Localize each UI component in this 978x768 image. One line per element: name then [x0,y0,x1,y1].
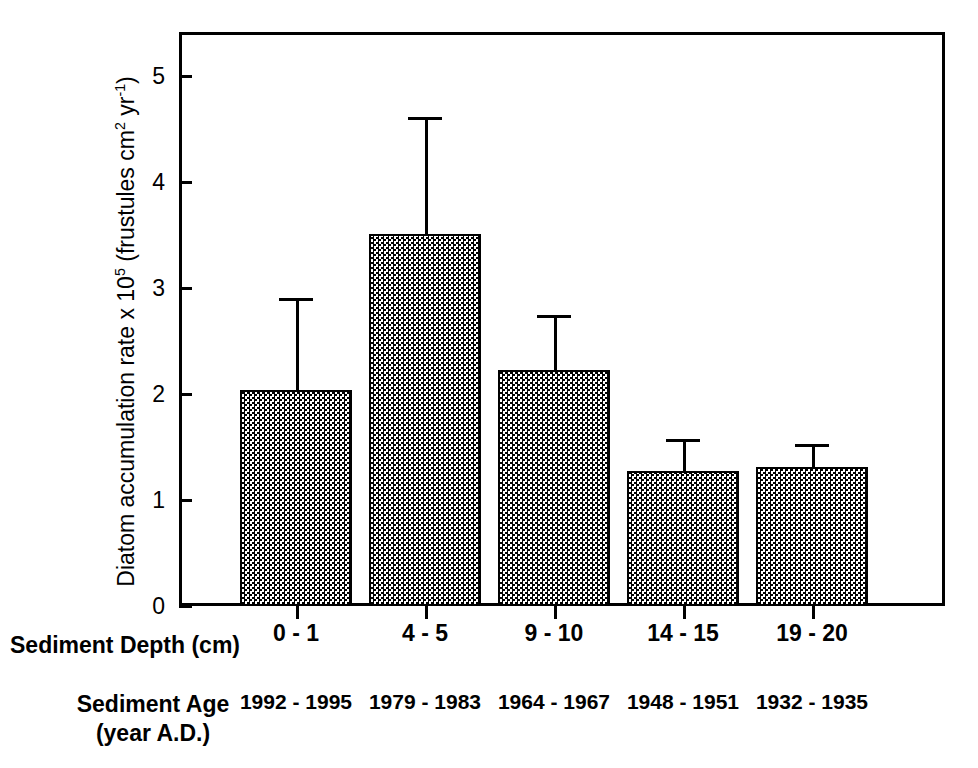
bar-1[interactable] [369,234,481,606]
y-tick-label-0: 0 [125,595,165,618]
x-category-label-4: 19 - 20 [752,620,872,647]
error-bar-cap-3 [666,439,700,442]
x-tick-2 [554,606,557,619]
x-category-label-1: 4 - 5 [365,620,485,647]
bar-0[interactable] [240,390,352,606]
y-tick-label-4: 4 [125,171,165,194]
x-category-label-3: 14 - 15 [623,620,743,647]
x-category-label-2: 9 - 10 [494,620,614,647]
error-bar-line-4 [812,444,815,467]
y-axis-title-mid-2: yr [113,97,139,123]
bar-4[interactable] [756,467,868,606]
x-axis-title-age-line1: Sediment Age [77,691,230,717]
x-axis-title-age: Sediment Age(year A.D.) [38,690,268,748]
x-tick-4 [812,606,815,619]
y-axis-title: Diatom accumulation rate x 105 (frustule… [113,32,140,632]
y-tick-major-3 [179,287,192,290]
y-axis-title-exponent-2: 2 [112,122,128,130]
x-tick-1 [425,606,428,619]
error-bar-cap-0 [279,298,313,301]
bar-2[interactable] [498,370,610,606]
x-age-label-2: 1964 - 1967 [479,690,629,714]
x-age-label-3: 1948 - 1951 [608,690,758,714]
x-age-label-4: 1932 - 1935 [737,690,887,714]
error-bar-cap-1 [408,117,442,120]
x-tick-0 [296,606,299,619]
x-tick-3 [683,606,686,619]
error-bar-line-0 [296,298,299,390]
x-age-label-1: 1979 - 1983 [350,690,500,714]
y-tick-major-4 [179,181,192,184]
error-bar-line-2 [554,315,557,370]
y-tick-label-5: 5 [125,65,165,88]
error-bar-line-3 [683,439,686,471]
bar-3[interactable] [627,471,739,606]
y-axis-title-mid: (frustules cm [113,130,139,268]
error-bar-cap-4 [795,444,829,447]
y-tick-major-1 [179,499,192,502]
x-axis-title-age-line2: (year A.D.) [38,719,268,748]
y-axis-title-exponent-1: 5 [112,268,128,276]
chart-figure: Diatom accumulation rate x 105 (frustule… [0,0,978,768]
y-tick-major-0 [179,605,192,608]
x-axis-title-depth: Sediment Depth (cm) [10,632,255,659]
y-tick-label-2: 2 [125,383,165,406]
y-tick-label-3: 3 [125,277,165,300]
y-tick-major-2 [179,393,192,396]
y-tick-major-5 [179,75,192,78]
error-bar-cap-2 [537,315,571,318]
y-axis-title-lead: Diatom accumulation rate x 10 [113,276,139,587]
error-bar-line-1 [425,117,428,234]
y-tick-label-1: 1 [125,489,165,512]
